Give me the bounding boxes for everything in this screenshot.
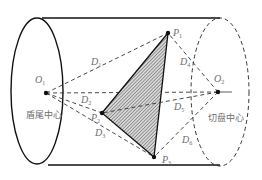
label-p2: P2 <box>90 112 100 124</box>
label-d3: D3 <box>94 127 105 139</box>
o2-point <box>216 90 220 94</box>
p1-point <box>166 31 170 35</box>
label-d2: D2 <box>80 94 91 106</box>
p3-point <box>152 155 156 159</box>
shield-tail-ellipse <box>11 18 63 164</box>
line-d4 <box>168 33 218 92</box>
o1-point <box>44 91 48 95</box>
shield-tunnel-diagram: O1 O2 P1 P2 P3 D1 D2 D3 D4 D5 D6 盾尾中心 切盘… <box>0 0 262 180</box>
triangle-p1-p2-p3 <box>102 33 168 157</box>
label-d6: D6 <box>181 134 192 146</box>
label-d1: D1 <box>90 56 101 68</box>
label-p3: P3 <box>161 154 171 166</box>
label-cutter-head-center: 切盘中心 <box>208 112 244 123</box>
label-o2: O2 <box>214 73 224 85</box>
p2-point <box>100 111 104 115</box>
label-o1: O1 <box>35 74 45 86</box>
label-d5: D5 <box>173 101 184 113</box>
label-p1: P1 <box>172 27 182 39</box>
line-d6 <box>154 92 218 157</box>
label-shield-tail-center: 盾尾中心 <box>26 109 62 120</box>
